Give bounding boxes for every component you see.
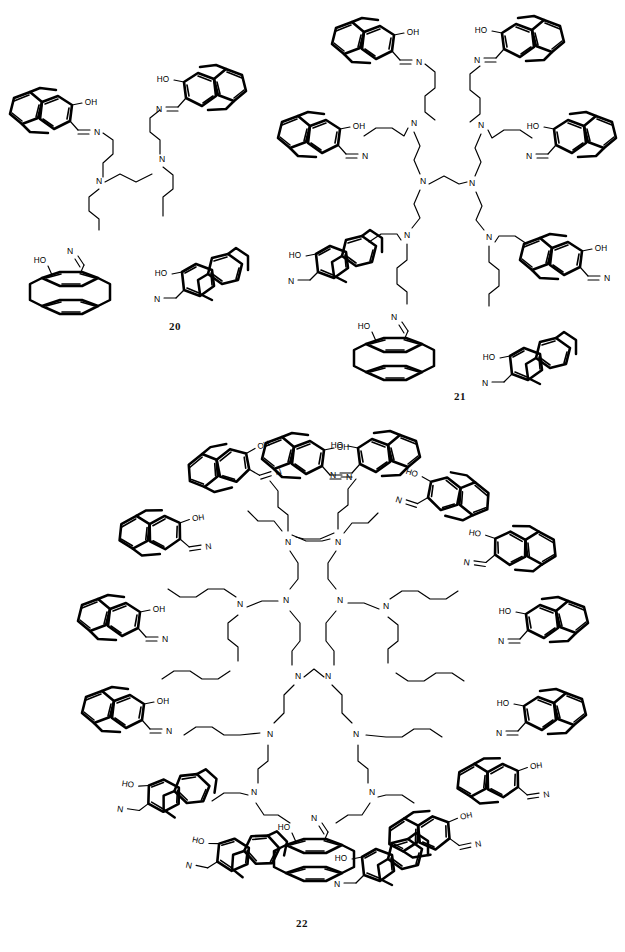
- dendrimer-skeleton-20: N N: [89, 110, 173, 230]
- cyclophane-unit: [463, 518, 559, 579]
- cyclophane-unit: [474, 16, 564, 65]
- svg-text:N: N: [486, 232, 492, 242]
- svg-text:N: N: [420, 176, 426, 186]
- structure-20-drawing: OH N: [0, 30, 280, 330]
- cyclophane-unit: [498, 597, 588, 646]
- svg-text:N: N: [353, 729, 359, 739]
- cyclophane-unit: [182, 429, 283, 504]
- structure-20: OH N: [0, 30, 280, 330]
- cyclophane-unit: [30, 246, 110, 314]
- cyclophane-unit: [116, 502, 212, 563]
- structure-21: N N N N N: [268, 4, 625, 414]
- svg-text:N: N: [295, 671, 301, 681]
- figure-sheet: OH N: [0, 0, 625, 952]
- cyclophane-unit: [394, 457, 495, 532]
- cyclophane-unit: [288, 230, 382, 286]
- cyclophane-unit: [496, 689, 586, 738]
- dendrimer-skeleton-21: N N N N N: [364, 64, 532, 306]
- cyclophane-unit: [454, 750, 550, 811]
- structure-22: N N N N N: [52, 425, 574, 925]
- svg-text:N: N: [237, 599, 243, 609]
- cyclophane-unit: [117, 758, 218, 827]
- cyclophane-unit: [482, 332, 576, 388]
- svg-text:N: N: [404, 230, 410, 240]
- cyclophane-unit: [78, 595, 168, 644]
- svg-text:N: N: [411, 118, 417, 128]
- structure-21-drawing: N N N N N: [268, 4, 625, 414]
- svg-text:N: N: [285, 537, 291, 547]
- svg-text:N: N: [96, 176, 102, 186]
- cyclophane-unit: [278, 112, 368, 161]
- svg-text:N: N: [325, 671, 331, 681]
- cyclophane-unit: [156, 65, 246, 114]
- cyclophane-unit: [154, 248, 248, 304]
- svg-text:N: N: [283, 595, 289, 605]
- structure-22-drawing: N N N N N: [52, 425, 574, 925]
- cyclophane-unit: [82, 687, 172, 736]
- cyclophane-unit: [384, 800, 482, 867]
- svg-text:N: N: [478, 120, 484, 130]
- structure-20-label: 20: [155, 320, 195, 332]
- svg-text:N: N: [337, 595, 343, 605]
- svg-text:N: N: [267, 729, 273, 739]
- svg-text:N: N: [383, 601, 389, 611]
- cyclophane-unit: [520, 234, 610, 283]
- svg-text:N: N: [469, 178, 475, 188]
- svg-text:N: N: [335, 537, 341, 547]
- svg-text:N: N: [369, 787, 375, 797]
- cyclophane-unit: [526, 112, 616, 161]
- svg-text:N: N: [251, 787, 257, 797]
- structure-22-label: 22: [282, 917, 322, 929]
- svg-text:N: N: [159, 154, 165, 164]
- cyclophane-unit: [10, 88, 100, 137]
- structure-21-label: 21: [440, 390, 480, 402]
- cyclophane-unit: [354, 312, 434, 380]
- cyclophane-unit: [332, 18, 422, 67]
- cyclophane-unit: [334, 833, 428, 889]
